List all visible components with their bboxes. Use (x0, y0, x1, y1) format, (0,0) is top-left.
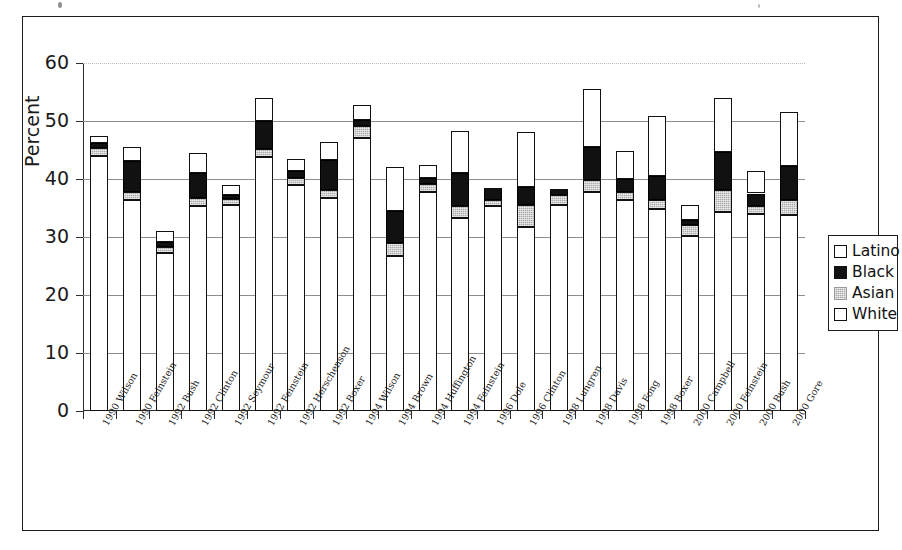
legend-item: White (834, 304, 890, 325)
stacked-bar (747, 63, 765, 411)
y-tick (76, 353, 83, 354)
stacked-bar (419, 63, 437, 411)
y-tick (76, 63, 83, 64)
bar-segment-asian (517, 205, 535, 227)
legend-label-asian: Asian (852, 286, 894, 302)
stacked-bar (287, 63, 305, 411)
y-tick-label: 10 (29, 343, 69, 362)
bar-segment-black (484, 189, 502, 200)
bar-segment-latino (189, 153, 207, 173)
bar-segment-black (681, 220, 699, 225)
bar-segment-latino (255, 98, 273, 121)
bar-segment-latino (222, 185, 240, 195)
figure-frame: 1990 Wilson1990 Feinstein1992 Bush1992 C… (22, 16, 879, 531)
y-tick (76, 295, 83, 296)
bar-segment-white (353, 138, 371, 411)
bar-segment-black (320, 160, 338, 190)
legend-label-white: White (852, 307, 897, 323)
bar-segment-black (517, 187, 535, 206)
bar-segment-asian (156, 247, 174, 253)
bar-segment-asian (648, 200, 666, 209)
stacked-bar (583, 63, 601, 411)
stacked-bar (648, 63, 666, 411)
bar-segment-latino (484, 188, 502, 190)
legend-label-black: Black (852, 265, 894, 281)
bar-segment-black (714, 152, 732, 190)
bar-segment-asian (353, 126, 371, 139)
bar-segment-black (123, 161, 141, 192)
bar-segment-asian (616, 192, 634, 200)
bar-segment-latino (780, 112, 798, 165)
bar-segment-latino (714, 98, 732, 152)
bar-segment-asian (255, 149, 273, 157)
bar-segment-asian (222, 199, 240, 205)
bar-segment-black (189, 173, 207, 199)
bar-segment-latino (648, 116, 666, 176)
stacked-bar (550, 63, 568, 411)
bar-segment-black (419, 178, 437, 184)
bar-segment-asian (780, 200, 798, 215)
bar-segment-asian (320, 190, 338, 198)
bar-segment-asian (747, 206, 765, 214)
y-tick-label: 0 (29, 401, 69, 420)
bar-segment-latino (550, 189, 568, 191)
bar-segment-latino (386, 167, 404, 211)
y-tick (76, 121, 83, 122)
y-tick (76, 411, 83, 412)
bar-segment-latino (287, 159, 305, 171)
plot-area: 1990 Wilson1990 Feinstein1992 Bush1992 C… (83, 63, 805, 411)
y-tick-label: 60 (29, 53, 69, 72)
stacked-bar (123, 63, 141, 411)
bar-segment-black (255, 121, 273, 149)
bar-segment-asian (451, 206, 469, 219)
bar-segment-latino (451, 131, 469, 173)
scan-artifact (42, 0, 862, 14)
stacked-bar (90, 63, 108, 411)
stacked-bar (386, 63, 404, 411)
bar-segment-black (616, 179, 634, 192)
bar-segment-asian (287, 178, 305, 185)
stacked-bar (616, 63, 634, 411)
bar-segment-latino (747, 171, 765, 194)
bar-segment-asian (583, 180, 601, 192)
bar-segment-latino (156, 231, 174, 241)
bar-segment-asian (681, 225, 699, 236)
y-tick-label: 40 (29, 169, 69, 188)
stacked-bar (484, 63, 502, 411)
bar-segment-asian (123, 192, 141, 201)
bar-segment-latino (583, 89, 601, 147)
bar-segment-asian (484, 200, 502, 206)
bar-segment-asian (714, 190, 732, 212)
legend-label-latino: Latino (852, 244, 900, 260)
legend-item: Black (834, 262, 890, 283)
bar-segment-black (451, 173, 469, 205)
bar-segment-latino (353, 105, 371, 120)
legend-item: Asian (834, 283, 890, 304)
y-axis-title: Percent (21, 96, 43, 168)
bar-segment-black (747, 194, 765, 206)
bar-segment-latino (320, 142, 338, 161)
bar-segment-asian (386, 243, 404, 255)
bar-segment-asian (90, 148, 108, 156)
bar-segment-asian (189, 198, 207, 206)
bar-segment-black (287, 171, 305, 177)
stacked-bar (189, 63, 207, 411)
bar-segment-latino (517, 132, 535, 187)
stacked-bar (255, 63, 273, 411)
bar-segment-black (648, 176, 666, 200)
bar-segment-white (90, 156, 108, 411)
y-tick-label: 30 (29, 227, 69, 246)
bar-segment-latino (123, 147, 141, 162)
x-tick (83, 411, 84, 419)
scan-speck-icon (758, 4, 760, 8)
bar-segment-asian (550, 195, 568, 204)
bar-segment-latino (90, 136, 108, 143)
bar-segment-black (386, 211, 404, 243)
bar-segment-latino (681, 205, 699, 220)
y-tick (76, 179, 83, 180)
bar-segment-black (156, 242, 174, 247)
scan-speck-icon (58, 2, 62, 8)
bar-segment-black (583, 147, 601, 180)
legend-swatch-white-icon (834, 308, 847, 321)
bar-segment-latino (616, 151, 634, 179)
